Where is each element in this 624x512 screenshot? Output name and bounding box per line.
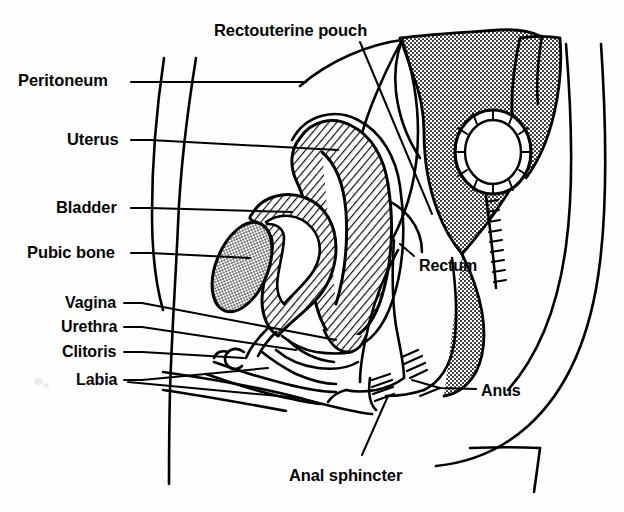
label-urethra: Urethra [61, 319, 117, 335]
label-rectum: Rectum [419, 258, 477, 274]
label-anal-sphincter: Anal sphincter [289, 467, 402, 484]
anal-sphincter-muscle [402, 350, 427, 378]
scan-artifact [43, 383, 49, 388]
ringed-lumen-inner [465, 120, 521, 184]
leader-labia-lower [128, 382, 300, 398]
label-labia: Labia [76, 372, 117, 388]
label-clitoris: Clitoris [62, 344, 116, 360]
label-anus: Anus [481, 383, 521, 399]
labia-majora [214, 362, 336, 392]
leader-anal-sphincter [362, 396, 388, 455]
label-pubic-bone: Pubic bone [27, 244, 115, 261]
label-rectouterine-pouch: Rectouterine pouch [214, 22, 367, 39]
label-vagina: Vagina [65, 295, 116, 311]
sacrococcygeal-tail [444, 254, 484, 396]
gluteal-crease-vertical [534, 448, 540, 492]
label-uterus: Uterus [67, 131, 119, 148]
label-bladder: Bladder [56, 199, 117, 216]
striated-muscle-comb [486, 196, 506, 288]
gluteal-crease [470, 447, 540, 448]
abdominal-wall-outline [169, 58, 196, 484]
diagram-canvas: Rectouterine pouch Peritoneum Uterus Bla… [0, 0, 624, 512]
scan-artifact [34, 378, 43, 385]
anterior-inner-line [152, 58, 164, 310]
label-peritoneum: Peritoneum [18, 72, 108, 89]
